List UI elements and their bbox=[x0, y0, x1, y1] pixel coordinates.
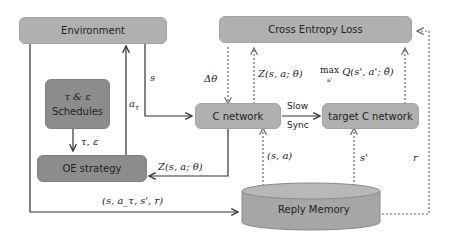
schedules-label: Schedules bbox=[52, 104, 103, 119]
max-subscript: a' bbox=[327, 75, 332, 84]
diagram-canvas: Environment τ & ε Schedules OE strategy … bbox=[0, 0, 454, 238]
target-c-network-node: target C network bbox=[322, 103, 419, 129]
schedules-symbols: τ & ε bbox=[64, 89, 90, 104]
edge-label-reward: r bbox=[413, 152, 418, 163]
environment-label: Environment bbox=[61, 25, 125, 36]
edge-label-z-to-loss: Z(s, a; θ) bbox=[258, 68, 303, 79]
cross-entropy-loss-label: Cross Entropy Loss bbox=[268, 24, 363, 35]
oe-strategy-label: OE strategy bbox=[62, 163, 121, 174]
edge-label-schedule-params: τ, ε bbox=[81, 136, 98, 147]
edge-label-transition: (s, a_τ, s', r) bbox=[102, 195, 163, 206]
c-network-node: C network bbox=[195, 103, 281, 129]
edge-label-action: aτ bbox=[129, 98, 139, 112]
edge-label-sa-sample: (s, a) bbox=[267, 150, 292, 161]
cross-entropy-loss-node: Cross Entropy Loss bbox=[219, 16, 412, 43]
schedules-node: τ & ε Schedules bbox=[45, 79, 110, 129]
edge-label-sync: Sync bbox=[287, 120, 309, 130]
edge-label-max-q: maxa' Q(s', a'; θ̃) bbox=[320, 66, 394, 84]
oe-strategy-node: OE strategy bbox=[37, 155, 147, 182]
environment-node: Environment bbox=[19, 17, 167, 44]
edge-label-z-to-oe: Z(s, a; θ) bbox=[158, 161, 203, 172]
edge-label-s-prime: s' bbox=[360, 152, 368, 163]
c-network-label: C network bbox=[213, 111, 264, 122]
edge-label-state: s bbox=[150, 72, 155, 83]
edge-label-delta-theta: Δθ bbox=[204, 73, 217, 84]
target-c-network-label: target C network bbox=[328, 111, 412, 122]
reply-memory-label: Reply Memory bbox=[278, 204, 350, 215]
edge-label-slow: Slow bbox=[287, 101, 308, 111]
